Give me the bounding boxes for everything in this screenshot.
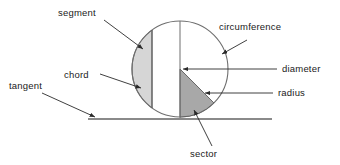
circumference-leader-line [222,40,247,54]
circle-parts-diagram: segment chord tangent circumference diam… [0,0,340,165]
segment-region [132,30,152,108]
label-segment: segment [58,7,96,18]
label-radius: radius [278,87,305,98]
diagram-canvas: segment chord tangent circumference diam… [0,0,340,165]
label-tangent: tangent [9,80,42,91]
label-circumference: circumference [219,21,281,32]
label-sector: sector [190,148,217,159]
tangent-leader-line [42,93,95,117]
label-diameter: diameter [282,63,321,74]
segment-leader-line [104,20,143,49]
label-chord: chord [64,69,89,80]
sector-leader-line [194,110,212,146]
